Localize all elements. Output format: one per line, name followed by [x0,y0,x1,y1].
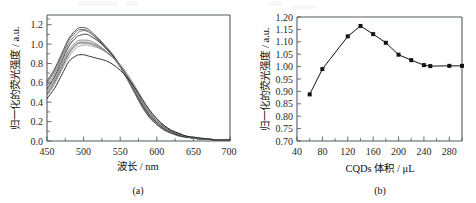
panel-b-xtick-label: 80 [317,146,327,157]
panel-a-ytick-6: 1.2 [31,19,44,30]
panel-b-data-point [346,34,350,38]
figure-container: 0.0 0.2 0.4 0.6 0.8 1.0 1.2 450 500 550 … [0,0,476,203]
panel-b-ytick-label: 0.75 [276,123,294,134]
panel-b-x-ticks [297,137,462,142]
panel-b-ytick-label: 1.15 [276,24,294,35]
panel-a-y-ticklabels: 0.0 0.2 0.4 0.6 0.8 1.0 1.2 [31,19,44,146]
panel-b-data-point [397,53,401,57]
panel-b-ytick-label: 1.20 [276,12,294,23]
panel-b-line [310,26,462,94]
panel-b-ytick-label: 0.85 [276,98,294,109]
panel-a-ytick-5: 1.0 [31,39,44,50]
panel-a-svg: 0.0 0.2 0.4 0.6 0.8 1.0 1.2 450 500 550 … [0,0,238,203]
panel-b-xtick-label: 280 [442,146,457,157]
panel-a-xtick-2: 550 [113,146,128,157]
panel-a-xtick-3: 600 [149,146,164,157]
panel-b-data-point [371,32,375,36]
panel-a-xlabel: 波长 / nm [117,160,159,172]
panel-b-xtick-label: 200 [391,146,406,157]
panel-a-xtick-0: 450 [40,146,55,157]
panel-a-emission-spectra: 0.0 0.2 0.4 0.6 0.8 1.0 1.2 450 500 550 … [0,0,238,203]
panel-b-svg: 0.700.750.800.850.900.951.001.051.101.15… [238,0,476,203]
panel-a-xtick-5: 700 [222,146,237,157]
spectrum-curve [47,40,230,140]
panel-a-ytick-4: 0.8 [31,58,44,69]
panel-b-ytick-label: 0.70 [276,136,294,147]
panel-a-x-ticklabels: 450 500 550 600 650 700 [40,146,237,157]
panel-b-xtick-label: 160 [366,146,381,157]
panel-b-data-point [428,64,432,68]
panel-a-ytick-2: 0.4 [31,97,44,108]
panel-b-data-point [422,63,426,67]
panel-b-series-group [308,24,464,96]
panel-b-data-point [358,24,362,28]
panel-a-ytick-3: 0.6 [31,77,44,88]
panel-b-xtick-label: 240 [416,146,431,157]
panel-b-data-point [447,64,451,68]
panel-b-intensity-vs-volume: 0.700.750.800.850.900.951.001.051.101.15… [238,0,476,203]
panel-b-ytick-label: 1.10 [276,36,294,47]
panel-a-ytick-1: 0.2 [31,116,44,127]
panel-b-y-ticklabels: 0.700.750.800.850.900.951.001.051.101.15… [276,12,294,147]
panel-b-ytick-label: 0.90 [276,86,294,97]
panel-b-y-ticks [297,17,301,141]
panel-b-ylabel: 归一化的荧光强度 / a.u. [259,27,271,130]
panel-b-x-ticklabels: 4080120160200240280 [292,146,457,157]
panel-b-xlabel: CQDs 体积 / μL [345,163,414,174]
panel-b-data-point [384,41,388,45]
spectrum-curve [47,45,230,140]
panel-b-data-point [308,92,312,96]
panel-b-data-point [320,67,324,71]
panel-b-ytick-label: 0.95 [276,74,294,85]
panel-b-ytick-label: 1.00 [276,61,294,72]
panel-b-xtick-label: 40 [292,146,302,157]
panel-a-caption: (a) [132,185,143,197]
panel-b-data-point [409,58,413,62]
panel-b-ytick-label: 1.05 [276,49,294,60]
panel-b-xtick-label: 120 [340,146,355,157]
panel-b-data-point [460,64,464,68]
panel-b-caption: (b) [374,185,386,197]
panel-a-xtick-1: 500 [76,146,91,157]
panel-a-ylabel: 归一化的荧光强度 / a.u. [9,26,21,129]
panel-a-curve-group [47,27,230,140]
panel-b-ytick-label: 0.80 [276,111,294,122]
panel-b-axes [297,17,462,141]
panel-a-xtick-4: 650 [186,146,201,157]
